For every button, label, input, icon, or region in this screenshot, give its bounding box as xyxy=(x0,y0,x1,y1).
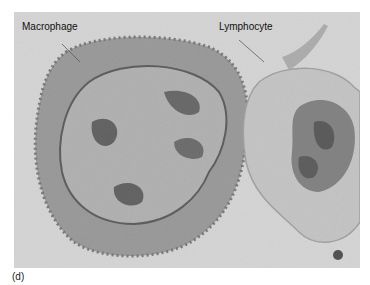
micrograph-drawing xyxy=(14,12,360,268)
macrophage-label: Macrophage xyxy=(22,21,78,32)
panel-label: (d) xyxy=(12,271,24,282)
lymphocyte-label: Lymphocyte xyxy=(219,21,273,32)
micrograph: Macrophage Lymphocyte xyxy=(14,12,360,268)
